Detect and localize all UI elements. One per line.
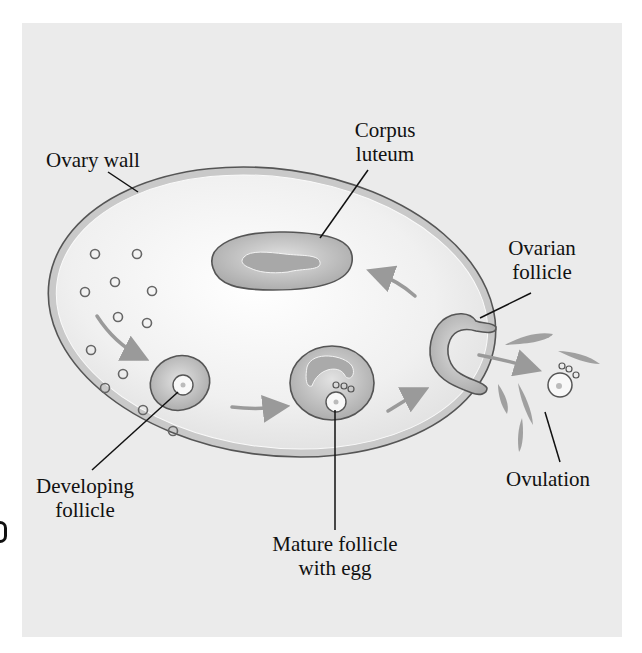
label-corpus-luteum-line2: luteum — [330, 142, 440, 166]
corpus-luteum — [212, 232, 352, 290]
label-mature-follicle: Mature follicle with egg — [250, 532, 420, 580]
label-developing-follicle: Developing follicle — [20, 474, 150, 522]
ovary — [29, 139, 514, 485]
label-corpus-luteum-line1: Corpus — [330, 118, 440, 142]
label-ovary-wall: Ovary wall — [46, 148, 140, 172]
label-corpus-luteum: Corpus luteum — [330, 118, 440, 166]
mature-follicle — [290, 346, 374, 420]
label-ovarian-follicle: Ovarian follicle — [487, 236, 597, 284]
label-mature-follicle-line1: Mature follicle — [250, 532, 420, 556]
label-ovarian-follicle-line2: follicle — [487, 260, 597, 284]
fluid-streaks — [498, 333, 600, 452]
label-ovarian-follicle-line1: Ovarian — [487, 236, 597, 260]
label-developing-follicle-line2: follicle — [20, 498, 150, 522]
label-developing-follicle-line1: Developing — [20, 474, 150, 498]
label-ovulation: Ovulation — [506, 467, 590, 491]
label-mature-follicle-line2: with egg — [250, 556, 420, 580]
released-egg — [548, 363, 579, 397]
